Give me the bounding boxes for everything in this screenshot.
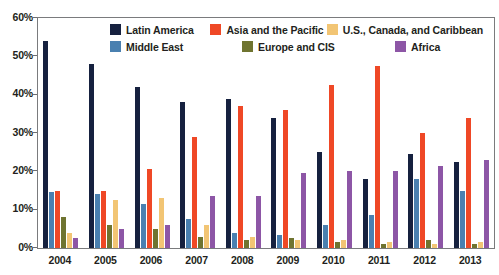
legend-label: Latin America [126, 24, 194, 36]
legend-label: Middle East [126, 41, 183, 53]
legend-item[interactable]: Africa [395, 38, 440, 55]
y-tick-label: 50% [13, 50, 33, 61]
bar [153, 229, 158, 248]
bar [301, 173, 306, 248]
bar [244, 240, 249, 248]
y-tick-label: 60% [13, 12, 33, 23]
x-tick-label: 2004 [37, 254, 83, 266]
legend-row: Latin AmericaAsia and the PacificU.S., C… [110, 21, 483, 38]
bar [454, 162, 459, 248]
y-tick-label: 30% [13, 127, 33, 138]
bar [289, 238, 294, 248]
bar [317, 152, 322, 248]
legend-label: Europe and CIS [258, 41, 335, 53]
legend-swatch-icon [110, 41, 121, 52]
bar [283, 110, 288, 248]
bar [238, 106, 243, 248]
legend-swatch-icon [210, 24, 221, 35]
x-tick-label: 2012 [402, 254, 448, 266]
legend-swatch-icon [110, 24, 121, 35]
bar [341, 240, 346, 248]
x-tick-label: 2007 [174, 254, 220, 266]
legend-label: Africa [411, 41, 440, 53]
legend-swatch-icon [395, 41, 406, 52]
legend-row: Middle EastEurope and CISAfrica [110, 38, 483, 55]
y-tick-label: 0% [18, 242, 33, 253]
bar [472, 244, 477, 248]
bar [329, 85, 334, 248]
x-tick-label: 2011 [356, 254, 402, 266]
bar [387, 242, 392, 248]
bar [375, 66, 380, 248]
bar [232, 233, 237, 248]
bar [408, 154, 413, 248]
legend-item[interactable]: Latin America [110, 21, 210, 38]
bar [89, 64, 94, 248]
legend-item[interactable]: Asia and the Pacific [210, 21, 326, 38]
bar [295, 240, 300, 248]
bar [426, 240, 431, 248]
bar [226, 99, 231, 249]
y-tick-label: 10% [13, 203, 33, 214]
bar [466, 118, 471, 248]
bar [107, 225, 112, 248]
legend: Latin AmericaAsia and the PacificU.S., C… [106, 18, 487, 59]
bar [250, 237, 255, 249]
x-axis: 2004200520062007200820092010201120122013 [37, 250, 495, 272]
bar [159, 198, 164, 248]
bar [61, 217, 66, 248]
legend-label: Asia and the Pacific [226, 24, 323, 36]
bar [347, 171, 352, 248]
bar [420, 133, 425, 248]
bar [369, 215, 374, 248]
bar [432, 244, 437, 248]
y-axis: 0%10%20%30%40%50%60% [0, 0, 36, 258]
bar [49, 192, 54, 248]
bar [165, 225, 170, 248]
bar [101, 191, 106, 249]
bar-cluster [43, 18, 78, 248]
x-tick-label: 2010 [311, 254, 357, 266]
bar-chart: 0%10%20%30%40%50%60% 2004200520062007200… [0, 0, 499, 275]
bar [119, 229, 124, 248]
legend-item[interactable]: Europe and CIS [242, 38, 395, 55]
bar [323, 225, 328, 248]
bar [256, 196, 261, 248]
bar [393, 171, 398, 248]
bar [192, 137, 197, 248]
x-tick-label: 2009 [265, 254, 311, 266]
y-tick-label: 20% [13, 165, 33, 176]
bar [277, 235, 282, 248]
bar [147, 169, 152, 248]
bar [438, 166, 443, 248]
bar [55, 191, 60, 249]
x-tick-label: 2013 [447, 254, 493, 266]
bar [141, 204, 146, 248]
x-tick-label: 2006 [128, 254, 174, 266]
legend-item[interactable]: Middle East [110, 38, 242, 55]
bar [335, 242, 340, 248]
bar [363, 179, 368, 248]
bar [381, 244, 386, 248]
bar [180, 102, 185, 248]
bar [484, 160, 489, 248]
legend-swatch-icon [327, 24, 338, 35]
bar [414, 179, 419, 248]
y-tick-label: 40% [13, 88, 33, 99]
bar [135, 87, 140, 248]
bar [73, 238, 78, 248]
x-tick-label: 2005 [83, 254, 129, 266]
bar [478, 242, 483, 248]
bar [460, 191, 465, 249]
legend-swatch-icon [242, 41, 253, 52]
bar [210, 196, 215, 248]
bar [271, 118, 276, 248]
bar [204, 225, 209, 248]
x-tick-label: 2008 [219, 254, 265, 266]
legend-item[interactable]: U.S., Canada, and Caribbean [327, 21, 483, 38]
bar [113, 200, 118, 248]
bar [67, 233, 72, 248]
bar [198, 237, 203, 249]
bar [186, 219, 191, 248]
bar [95, 194, 100, 248]
